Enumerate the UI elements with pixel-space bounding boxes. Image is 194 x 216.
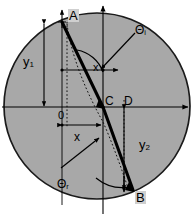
label-point-b: B	[135, 191, 146, 204]
label-theta-r: Θr	[57, 178, 69, 191]
label-theta-i: Θi	[135, 24, 146, 37]
label-y1: y1	[23, 55, 34, 70]
label-x-center: x	[93, 62, 99, 73]
label-point-d: D	[124, 95, 133, 107]
label-theta-r-subscript: r	[66, 182, 68, 191]
label-origin: 0	[58, 110, 64, 121]
refraction-diagram	[0, 0, 194, 216]
figure-canvas: A B C D 0 Θi Θr y1 y2 x x	[0, 0, 194, 216]
label-theta-i-subscript: i	[144, 28, 146, 37]
label-x-horizontal: x	[74, 131, 80, 143]
label-y2-subscript: 2	[146, 143, 150, 152]
label-y2: y2	[139, 138, 150, 153]
label-point-a: A	[68, 9, 79, 22]
label-point-c: C	[105, 95, 114, 107]
label-y1-subscript: 1	[30, 60, 34, 69]
